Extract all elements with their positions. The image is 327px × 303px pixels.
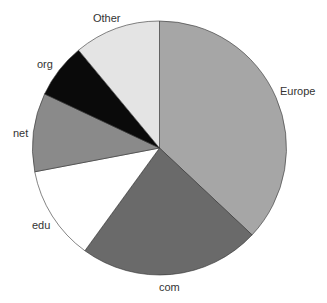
slice-label-edu: edu <box>32 219 50 231</box>
pie-chart: EuropecomedunetorgOther <box>0 0 327 303</box>
slice-label-europe: Europe <box>280 85 315 97</box>
slice-label-org: org <box>37 58 53 70</box>
slice-label-other: Other <box>93 12 121 24</box>
slice-label-com: com <box>159 281 180 293</box>
pie-slices <box>33 21 287 275</box>
slice-label-net: net <box>13 127 28 139</box>
pie-chart-canvas: EuropecomedunetorgOther <box>0 0 327 303</box>
